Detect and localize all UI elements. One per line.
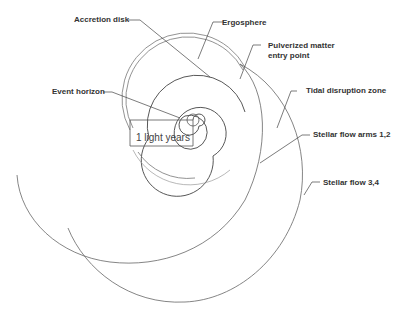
label-tidal-disruption-zone: Tidal disruption zone <box>306 86 386 95</box>
black-hole-diagram <box>0 0 394 315</box>
label-event-horizon: Event horizon <box>52 87 105 96</box>
label-accretion-disk: Accretion disk <box>74 15 129 24</box>
stellar-flow-34 <box>68 64 303 302</box>
label-ergosphere: Ergosphere <box>222 18 266 27</box>
label-pulverized-matter: Pulverized matter <box>268 41 335 50</box>
outer-rings <box>133 150 230 185</box>
label-stellar-flow-34: Stellar flow 3,4 <box>323 178 379 187</box>
label-entry-point: entry point <box>268 51 309 60</box>
scale-bar-label: 1 light years <box>136 132 190 143</box>
label-stellar-flow-arms-12: Stellar flow arms 1,2 <box>313 130 390 139</box>
ergosphere-rings <box>122 33 245 178</box>
